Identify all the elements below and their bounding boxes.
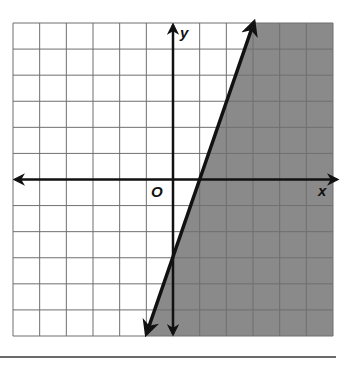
inequality-graph: x y O [0, 0, 344, 368]
divider-rule [0, 356, 336, 358]
y-axis-label: y [179, 24, 189, 41]
x-axis-label: x [317, 182, 327, 199]
origin-label: O [151, 183, 163, 200]
